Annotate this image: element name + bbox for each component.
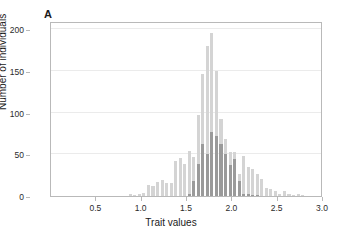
histogram-bar (229, 165, 232, 196)
histogram-bar (206, 154, 209, 196)
histogram-bar (224, 154, 227, 196)
histogram-bar (151, 186, 154, 196)
histogram-bar (161, 180, 164, 196)
histogram-bar (260, 179, 263, 196)
histogram-bar (138, 194, 141, 196)
histogram-bar (233, 159, 236, 196)
histogram-bar (292, 195, 295, 196)
y-tick-mark (26, 72, 30, 73)
x-axis: Trait values 0.51.01.52.02.53.0 (0, 197, 342, 241)
histogram-bar (129, 194, 132, 196)
x-tick-mark (277, 197, 278, 201)
histogram-bar (188, 194, 191, 197)
histogram-bar (170, 183, 173, 196)
y-axis-title: Number of individuals (0, 14, 8, 110)
histogram-bar (201, 144, 204, 197)
y-tick-label: 50 (15, 150, 24, 160)
histogram-bar (274, 191, 277, 196)
y-tick-label: 200 (10, 25, 24, 35)
histogram-bar (256, 174, 259, 196)
histogram-bar (265, 188, 268, 196)
y-tick-label: 100 (10, 109, 24, 119)
histogram-bar (278, 194, 281, 197)
histogram-bar (247, 194, 250, 196)
histogram-bar (283, 191, 286, 196)
histogram-bar (251, 169, 254, 197)
x-tick-label: 1.0 (135, 203, 147, 213)
histogram-bar (147, 185, 150, 196)
histogram-bar (242, 194, 245, 197)
x-tick-mark (186, 197, 187, 201)
x-tick-label: 2.5 (271, 203, 283, 213)
histogram-bar (142, 193, 145, 196)
x-tick-mark (141, 197, 142, 201)
histogram-bar (179, 158, 182, 196)
histogram-bar (133, 195, 136, 196)
histogram-bar (156, 182, 159, 196)
histogram-bar (219, 144, 222, 197)
x-tick-label: 0.5 (89, 203, 101, 213)
histogram-bar (301, 195, 304, 196)
histogram-bar (247, 167, 250, 196)
x-tick-label: 3.0 (316, 203, 328, 213)
histogram-bar (215, 136, 218, 196)
y-tick-mark (26, 30, 30, 31)
x-tick-mark (322, 197, 323, 201)
figure-panel: A Number of individuals 050100150200 Tra… (0, 0, 342, 241)
x-tick-mark (231, 197, 232, 201)
x-axis-title: Trait values (0, 217, 342, 228)
histogram-bar (287, 194, 290, 196)
histogram-bar (269, 189, 272, 197)
histogram-bar (242, 156, 245, 196)
histogram-bar (174, 161, 177, 196)
y-tick-label: 150 (10, 67, 24, 77)
histogram-bar (297, 194, 300, 196)
histogram-bars (51, 23, 321, 196)
x-tick-label: 2.0 (225, 203, 237, 213)
histogram-bar (165, 183, 168, 196)
histogram-bar (188, 151, 191, 196)
x-tick-mark (95, 197, 96, 201)
histogram-bar (256, 195, 259, 196)
plot-area (50, 22, 322, 197)
y-tick-mark (26, 114, 30, 115)
histogram-bar (210, 132, 213, 196)
histogram-bar (251, 195, 254, 196)
x-tick-label: 1.5 (180, 203, 192, 213)
histogram-bar (197, 164, 200, 197)
histogram-bar (183, 164, 186, 196)
histogram-bar (238, 181, 241, 196)
histogram-bar (192, 181, 195, 196)
y-tick-mark (26, 155, 30, 156)
